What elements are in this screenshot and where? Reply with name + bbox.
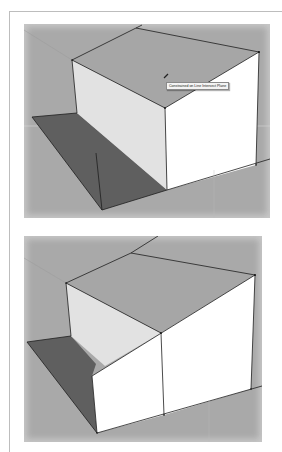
shadow — [27, 336, 97, 433]
inference-tooltip: Constrained on Line Intersect Plane — [166, 82, 229, 90]
axis-guide — [24, 30, 72, 60]
scene-bottom — [24, 236, 262, 442]
modeling-viewport-bottom[interactable] — [24, 236, 262, 442]
pencil-icon — [163, 73, 169, 79]
scene-top — [24, 24, 270, 218]
modeling-viewport-top[interactable] — [24, 24, 270, 218]
